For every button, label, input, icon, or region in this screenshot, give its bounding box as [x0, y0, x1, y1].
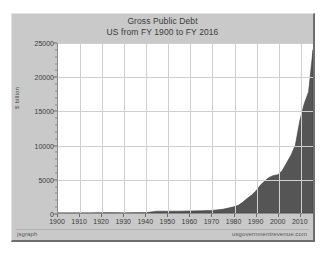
- gridline-horizontal: [58, 146, 313, 147]
- x-axis-tick-mark: [234, 214, 235, 217]
- chart-title: Gross Public Debt: [12, 16, 313, 27]
- y-axis-tick-label: 20000: [35, 74, 54, 81]
- debt-area-series: [58, 43, 313, 213]
- gridline-vertical: [146, 43, 147, 213]
- x-axis-tick-mark: [278, 214, 279, 217]
- gridline-vertical: [190, 43, 191, 213]
- x-axis-tick-label: 2000: [270, 218, 286, 225]
- gridline-horizontal: [58, 111, 313, 112]
- gridline-vertical: [279, 43, 280, 213]
- gridline-vertical: [257, 43, 258, 213]
- y-axis: 0500010000150002000025000: [12, 43, 57, 215]
- x-axis-tick-mark: [256, 214, 257, 217]
- chart-image: Gross Public Debt US from FY 1900 to FY …: [11, 13, 315, 242]
- footer-source-left: jsgraph: [17, 231, 37, 237]
- x-axis-tick-label: 1960: [182, 218, 198, 225]
- gridline-horizontal: [58, 43, 313, 44]
- x-axis-tick-mark: [189, 214, 190, 217]
- chart-subtitle: US from FY 1900 to FY 2016: [12, 27, 313, 38]
- gridline-vertical: [301, 43, 302, 213]
- footer-divider: [16, 229, 309, 230]
- x-axis-tick-mark: [211, 214, 212, 217]
- x-axis-tick-label: 1920: [93, 218, 109, 225]
- y-axis-tick-label: 10000: [35, 142, 54, 149]
- gridline-horizontal: [58, 77, 313, 78]
- x-axis-tick-label: 1930: [115, 218, 131, 225]
- gridline-vertical: [80, 43, 81, 213]
- x-axis-tick-label: 1990: [248, 218, 264, 225]
- x-axis-tick-label: 1910: [71, 218, 87, 225]
- gridline-vertical: [124, 43, 125, 213]
- x-axis-tick-mark: [57, 214, 58, 217]
- x-axis-tick-mark: [79, 214, 80, 217]
- gridline-vertical: [102, 43, 103, 213]
- x-axis-tick-label: 1970: [204, 218, 220, 225]
- x-axis-tick-label: 1940: [137, 218, 153, 225]
- x-axis-tick-mark: [300, 214, 301, 217]
- gridline-vertical: [212, 43, 213, 213]
- x-axis-tick-label: 1900: [49, 218, 65, 225]
- x-axis: 1900191019201930194019501960197019801990…: [57, 214, 313, 230]
- gridline-horizontal: [58, 180, 313, 181]
- x-axis-tick-mark: [167, 214, 168, 217]
- chart-title-block: Gross Public Debt US from FY 1900 to FY …: [12, 16, 313, 38]
- x-axis-tick-mark: [145, 214, 146, 217]
- gridline-vertical: [168, 43, 169, 213]
- y-axis-tick-label: 5000: [38, 176, 54, 183]
- x-axis-tick-label: 1980: [226, 218, 242, 225]
- x-axis-tick-mark: [101, 214, 102, 217]
- y-axis-tick-label: 15000: [35, 108, 54, 115]
- y-axis-tick-label: 25000: [35, 40, 54, 47]
- x-axis-tick-label: 2010: [292, 218, 308, 225]
- x-axis-tick-label: 1950: [160, 218, 176, 225]
- plot-area: [57, 43, 313, 214]
- footer-source-right: usgovernmentrevenue.com: [232, 231, 307, 237]
- x-axis-tick-mark: [123, 214, 124, 217]
- gridline-vertical: [235, 43, 236, 213]
